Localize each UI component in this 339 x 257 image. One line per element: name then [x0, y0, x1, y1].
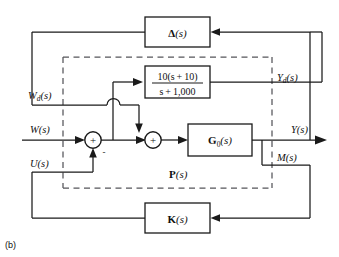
figure-caption: (b): [5, 240, 16, 250]
delta-block[interactable]: Δ(s): [145, 17, 210, 47]
summing-junction-1-negative-sign: -: [103, 147, 106, 157]
controller-block[interactable]: K(s): [145, 203, 210, 233]
weighting-filter-numerator: 10(s + 10): [157, 71, 197, 83]
controller-block-label: K(s): [167, 213, 188, 226]
plant-boundary-label: P(s): [169, 168, 188, 181]
weighting-filter-denominator: s + 1,000: [159, 86, 195, 97]
block-diagram-figure: Δ(s) 10(s + 10) s + 1,000 G0(s) K(s) + -…: [0, 0, 339, 257]
signal-label-m: M(s): [276, 152, 297, 164]
signal-label-y: Y(s): [291, 124, 308, 136]
diagram-canvas: Δ(s) 10(s + 10) s + 1,000 G0(s) K(s) + -…: [0, 0, 339, 257]
nominal-plant-block[interactable]: G0(s): [188, 124, 252, 156]
summing-junction-2[interactable]: +: [145, 132, 161, 148]
summing-junction-1-sign: +: [90, 134, 96, 146]
signal-label-w: W(s): [30, 124, 50, 136]
delta-block-label: Δ(s): [168, 27, 187, 40]
signal-label-u: U(s): [30, 158, 49, 170]
weighting-filter-block[interactable]: 10(s + 10) s + 1,000: [145, 66, 210, 98]
summing-junction-2-sign: +: [150, 134, 156, 146]
